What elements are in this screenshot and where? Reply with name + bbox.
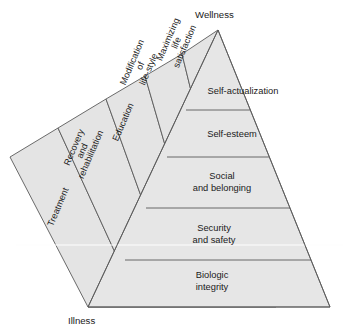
tier-label-social-line1: Social — [209, 171, 234, 181]
tier-label-biologic-line2: integrity — [196, 282, 229, 292]
pyramid-svg: Self-actualization Self-esteem Social an… — [0, 0, 343, 330]
tier-label-self-esteem: Self-esteem — [207, 129, 257, 139]
pole-label-wellness: Wellness — [195, 9, 234, 20]
wellness-illness-pyramid-diagram: Self-actualization Self-esteem Social an… — [0, 0, 343, 330]
tier-label-social-line2: and belonging — [193, 183, 251, 193]
pole-label-illness: Illness — [68, 315, 95, 326]
tier-label-security-line2: and safety — [193, 235, 236, 245]
tier-label-self-actualization: Self-actualization — [208, 86, 279, 96]
tier-label-biologic-line1: Biologic — [196, 270, 229, 280]
tier-label-security-line1: Security — [197, 223, 231, 233]
